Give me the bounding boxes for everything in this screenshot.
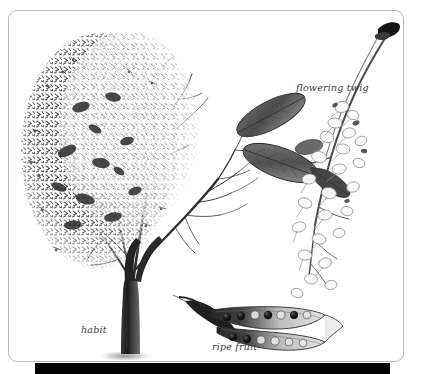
figure-flowering-twig: [231, 22, 400, 299]
label-flowering-twig: flowering twig: [296, 82, 369, 93]
twig-flowers: [290, 99, 368, 299]
tree-foliage-crown: [21, 31, 199, 269]
label-habit: habit: [81, 324, 107, 335]
illustration-plate: habit flowering twig ripe fruit: [0, 0, 425, 374]
bottom-black-bar: [35, 363, 390, 374]
label-ripe-fruit: ripe fruit: [212, 341, 257, 352]
figure-ripe-fruit: [173, 295, 343, 350]
twig-terminal-bud: [375, 22, 400, 40]
plate-frame: habit flowering twig ripe fruit: [8, 10, 404, 362]
plate-artwork: [9, 11, 404, 362]
tree-trunk: [121, 236, 163, 354]
